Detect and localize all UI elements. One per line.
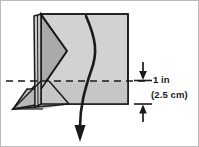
- dimension-arrow-bottom-head-icon: [139, 105, 147, 114]
- paper-spine-crease: [38, 15, 39, 106]
- dimension-label-centimeters: (2.5 cm): [151, 90, 188, 100]
- drop-path-arrowhead-icon: [75, 125, 86, 142]
- dimension-arrow-top-head-icon: [139, 71, 147, 80]
- dimension-label-inches: 1 in: [153, 75, 170, 85]
- figure-container: 1 in (2.5 cm): [0, 0, 199, 147]
